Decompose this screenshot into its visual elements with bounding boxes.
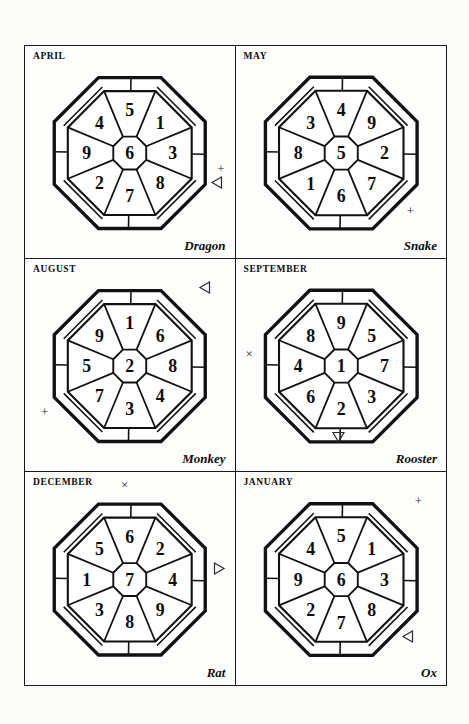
svg-text:2: 2 xyxy=(379,143,388,163)
svg-text:5: 5 xyxy=(95,539,104,559)
cross-marker: × xyxy=(246,347,253,360)
svg-text:6: 6 xyxy=(336,186,345,206)
svg-text:6: 6 xyxy=(336,570,345,590)
panel-may: MAY 592761834 Snake + xyxy=(236,46,447,259)
triangle-left-marker xyxy=(211,176,223,189)
animal-label: Rat xyxy=(207,665,226,681)
svg-text:7: 7 xyxy=(379,356,388,376)
panel-august: AUGUST 268437591 Monkey + xyxy=(25,259,236,472)
plus-marker: + xyxy=(415,494,422,507)
svg-text:7: 7 xyxy=(125,570,134,590)
animal-label: Rooster xyxy=(396,451,437,467)
svg-text:8: 8 xyxy=(168,356,177,376)
svg-text:5: 5 xyxy=(336,143,345,163)
svg-text:3: 3 xyxy=(168,143,177,163)
svg-text:9: 9 xyxy=(82,143,91,163)
plus-marker: + xyxy=(41,405,48,418)
svg-text:3: 3 xyxy=(125,399,134,419)
svg-text:4: 4 xyxy=(306,539,315,559)
svg-text:8: 8 xyxy=(125,612,134,632)
svg-text:1: 1 xyxy=(367,539,376,559)
animal-label: Monkey xyxy=(182,451,225,467)
svg-text:7: 7 xyxy=(125,186,134,206)
panel-january: JANUARY 613872945 Ox + xyxy=(236,472,447,685)
svg-text:1: 1 xyxy=(306,174,315,194)
svg-text:8: 8 xyxy=(293,143,302,163)
svg-text:1: 1 xyxy=(156,113,165,133)
magic-square-octagon-april: 613872945 xyxy=(25,46,235,258)
svg-text:8: 8 xyxy=(156,173,165,193)
svg-text:9: 9 xyxy=(95,326,104,346)
triangle-left-marker xyxy=(402,630,414,643)
svg-text:5: 5 xyxy=(82,356,91,376)
svg-text:4: 4 xyxy=(168,570,177,590)
animal-label: Dragon xyxy=(184,238,225,254)
svg-text:3: 3 xyxy=(367,387,376,407)
svg-text:4: 4 xyxy=(156,386,165,406)
magic-square-octagon-december: 724983156 xyxy=(25,472,235,685)
svg-text:9: 9 xyxy=(367,113,376,133)
svg-text:7: 7 xyxy=(336,613,345,633)
panel-december: DECEMBER 724983156 Rat × xyxy=(25,472,236,685)
svg-text:1: 1 xyxy=(336,356,345,376)
svg-text:3: 3 xyxy=(95,600,104,620)
plus-marker: + xyxy=(217,162,224,175)
svg-text:6: 6 xyxy=(125,527,134,547)
svg-text:7: 7 xyxy=(367,174,376,194)
svg-text:2: 2 xyxy=(95,173,104,193)
scan-margin-top xyxy=(0,0,469,45)
svg-text:5: 5 xyxy=(367,326,376,346)
svg-text:8: 8 xyxy=(367,600,376,620)
animal-label: Snake xyxy=(404,238,437,254)
triangle-right-marker xyxy=(213,562,225,575)
svg-text:1: 1 xyxy=(125,313,134,333)
svg-text:7: 7 xyxy=(95,386,104,406)
svg-text:3: 3 xyxy=(306,113,315,133)
svg-text:9: 9 xyxy=(336,313,345,333)
plus-marker: + xyxy=(407,204,414,217)
panel-september: SEPTEMBER 157326489 Rooster × xyxy=(236,259,447,472)
svg-text:2: 2 xyxy=(125,356,134,376)
svg-text:5: 5 xyxy=(125,100,134,120)
svg-text:2: 2 xyxy=(336,399,345,419)
svg-text:6: 6 xyxy=(306,387,315,407)
svg-text:4: 4 xyxy=(95,113,104,133)
animal-label: Ox xyxy=(421,665,437,681)
panel-april: APRIL 613872945 Dragon + xyxy=(25,46,236,259)
chart-page: APRIL 613872945 Dragon + MAY 592761834 S… xyxy=(24,45,447,686)
svg-text:9: 9 xyxy=(156,600,165,620)
svg-text:1: 1 xyxy=(82,570,91,590)
triangle-left-marker xyxy=(199,281,211,294)
svg-text:8: 8 xyxy=(306,326,315,346)
svg-text:3: 3 xyxy=(379,570,388,590)
svg-text:5: 5 xyxy=(336,526,345,546)
magic-square-octagon-may: 592761834 xyxy=(236,46,447,258)
triangle-down-marker xyxy=(332,431,345,443)
svg-text:6: 6 xyxy=(125,143,134,163)
svg-text:2: 2 xyxy=(156,539,165,559)
svg-text:6: 6 xyxy=(156,326,165,346)
svg-text:4: 4 xyxy=(293,356,302,376)
svg-text:9: 9 xyxy=(293,570,302,590)
svg-text:2: 2 xyxy=(306,600,315,620)
cross-marker: × xyxy=(121,478,128,491)
svg-text:4: 4 xyxy=(336,100,345,120)
